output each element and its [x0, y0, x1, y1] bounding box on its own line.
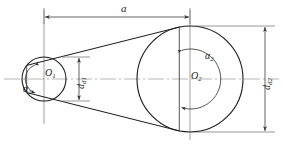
- label-wrap-angle-large: α2: [205, 51, 214, 62]
- label-diameter-small: dd1: [76, 77, 87, 89]
- belt-upper-run: [27, 27, 180, 65]
- label-large-pulley-center: O2: [191, 71, 202, 82]
- dimension-center-distance: [44, 8, 190, 24]
- label-center-distance: a: [121, 3, 127, 14]
- label-wrap-angle-small: α1: [23, 84, 32, 95]
- belt-drive-diagram: a O1 O2 α1 α2 dd1 dd2: [0, 0, 283, 148]
- diagram-canvas: [0, 0, 283, 148]
- label-small-pulley-center: O1: [45, 68, 56, 79]
- label-diameter-large: dd2: [262, 78, 273, 90]
- belt-lower-run: [27, 93, 180, 131]
